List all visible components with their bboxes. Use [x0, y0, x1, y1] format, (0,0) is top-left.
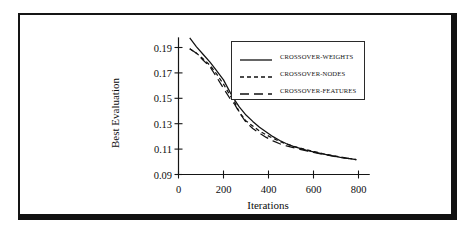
x-axis-tick-label: 800 — [351, 184, 367, 195]
chart-legend: CROSSOVER-WEIGHTSCROSSOVER-NODESCROSSOVE… — [231, 41, 365, 100]
y-axis-tick-label: 0.17 — [140, 67, 172, 78]
y-axis-tick-label: 0.11 — [140, 144, 172, 155]
legend-label: CROSSOVER-FEATURES — [280, 87, 356, 94]
legend-label: CROSSOVER-WEIGHTS — [280, 53, 353, 60]
y-axis-tick-label: 0.09 — [140, 169, 172, 180]
legend-line-swatch — [239, 68, 273, 78]
legend-line-swatch — [239, 85, 273, 95]
x-axis-tick-label: 400 — [261, 184, 277, 195]
y-axis-tick-label: 0.15 — [140, 93, 172, 104]
legend-line-swatch — [239, 51, 273, 61]
y-axis-title-text: Best Evaluation — [109, 58, 121, 168]
legend-item: CROSSOVER-WEIGHTS — [232, 47, 364, 65]
y-axis-tick-label: 0.13 — [140, 118, 172, 129]
figure-root: 0.090.110.130.150.170.19 0200400600800 B… — [0, 0, 473, 240]
x-axis-title: Iterations — [178, 199, 358, 211]
legend-item: CROSSOVER-FEATURES — [232, 81, 364, 99]
legend-item: CROSSOVER-NODES — [232, 64, 364, 82]
y-axis-tick-label: 0.19 — [140, 42, 172, 53]
x-axis-tick-label: 200 — [216, 184, 232, 195]
y-axis-title: Best Evaluation — [109, 0, 121, 58]
x-axis-tick-label: 600 — [306, 184, 322, 195]
x-axis-tick-label: 0 — [176, 184, 181, 195]
legend-label: CROSSOVER-NODES — [280, 70, 345, 77]
